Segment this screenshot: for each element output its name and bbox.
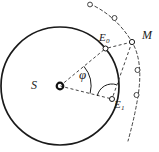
trajectory-marker xyxy=(134,93,139,98)
label-e1-base: E xyxy=(114,98,121,110)
trajectory-marker xyxy=(88,2,93,7)
ray-center-to-e1 xyxy=(60,86,112,99)
label-center-s: S xyxy=(31,79,37,91)
label-angle-phi: φ xyxy=(79,68,86,81)
point-marker-e0 xyxy=(103,46,108,51)
trajectory-marker xyxy=(135,68,140,73)
label-point-m: M xyxy=(142,29,152,41)
point-marker-m xyxy=(129,39,134,44)
center-marker-dot xyxy=(59,85,61,87)
geometry-figure: S φ E0 E1 M xyxy=(0,0,159,152)
segment-m-to-e1 xyxy=(112,42,132,99)
trajectory-marker xyxy=(112,16,117,21)
label-point-e1: E1 xyxy=(114,99,124,110)
label-e0-subscript: 0 xyxy=(106,37,110,45)
label-e0-base: E xyxy=(99,31,106,43)
dashed-trajectory-arc xyxy=(90,4,140,141)
segment-m-to-e0 xyxy=(106,42,133,49)
label-e1-subscript: 1 xyxy=(121,104,125,112)
label-point-e0: E0 xyxy=(99,32,109,43)
